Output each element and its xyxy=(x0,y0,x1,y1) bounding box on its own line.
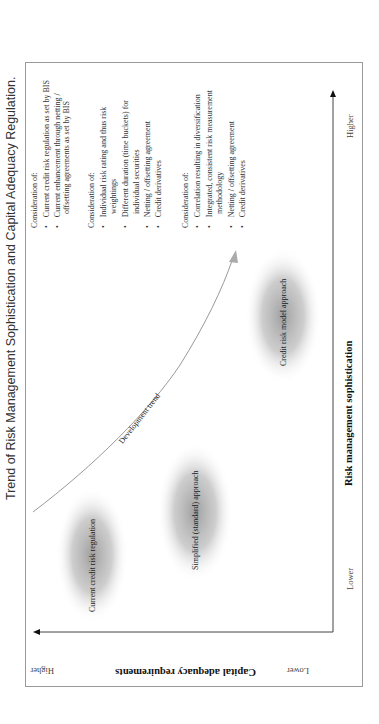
y-axis-title: Capital adequacy requirements xyxy=(115,667,256,678)
line-text: Current enhancement through netting / xyxy=(53,93,62,217)
line-text: Individual risk rating and thus risk xyxy=(99,107,108,217)
consideration-3-line-5: • Credit derivatives xyxy=(239,160,247,228)
y-axis-high-label: Higher xyxy=(30,666,54,676)
consideration-1-line-3: offsetting agreements as set by BIS xyxy=(63,101,71,214)
bullet-icon: • xyxy=(227,217,236,228)
x-axis-low-label: Lower xyxy=(345,568,355,590)
consideration-3-heading: Consideration of: xyxy=(182,172,190,228)
consideration-2-line-1: • Individual risk rating and thus risk xyxy=(100,107,108,228)
consideration-3-line-1: • Correlation resulting in diversificati… xyxy=(194,94,202,228)
bullet-icon: • xyxy=(121,217,130,228)
bullet-icon: • xyxy=(99,217,108,228)
consideration-1-line-1: • Current credit risk regulation as set … xyxy=(43,80,51,228)
bullet-icon: • xyxy=(53,217,62,228)
trend-arrowhead-icon xyxy=(229,250,238,263)
bullet-icon: • xyxy=(42,217,51,228)
consideration-3-line-4: • Netting / offsetting agreement xyxy=(228,121,236,228)
line-text: Credit derivatives xyxy=(154,160,163,217)
line-text: Integrated, consistent risk measurement xyxy=(205,90,214,217)
x-axis-title: Risk management sophistication xyxy=(343,341,354,486)
line-text: Correlation resulting in diversification xyxy=(193,94,202,217)
consideration-2-line-5: • Netting / offsetting agreement xyxy=(144,121,152,228)
line-text: Netting / offsetting agreement xyxy=(227,121,236,217)
bullet-icon: • xyxy=(205,217,214,228)
consideration-3-line-3: methodology xyxy=(216,172,224,214)
line-text: Credit derivatives xyxy=(238,160,247,217)
line-text: Netting / offsetting agreement xyxy=(143,121,152,217)
consideration-2-line-2: weightings xyxy=(110,179,118,214)
x-axis-high-label: Higher xyxy=(345,114,355,138)
consideration-1-heading: Consideration of: xyxy=(31,172,39,228)
bullet-icon: • xyxy=(238,217,247,228)
consideration-2-heading: Consideration of: xyxy=(88,172,96,228)
consideration-2-line-6: • Credit derivatives xyxy=(155,160,163,228)
line-text: Different duration (time buckets) for xyxy=(121,100,130,217)
stage-model-label: Credit risk model approach xyxy=(279,279,288,366)
consideration-2-line-3: • Different duration (time buckets) for xyxy=(122,100,130,228)
consideration-2-line-4: individual securities xyxy=(133,149,141,214)
consideration-1-line-2: • Current enhancement through netting / xyxy=(54,93,62,228)
x-axis-arrowhead-icon xyxy=(330,90,336,97)
line-text: Current credit risk regulation as set by… xyxy=(42,80,51,217)
y-axis-low-label: Lower xyxy=(287,666,309,676)
bullet-icon: • xyxy=(193,217,202,228)
bullet-icon: • xyxy=(143,217,152,228)
consideration-3-line-2: • Integrated, consistent risk measuremen… xyxy=(206,90,214,228)
bullet-icon: • xyxy=(154,217,163,228)
stage-simplified-label: Simplified (standard) approach xyxy=(191,470,200,570)
stage-current-label: Current credit risk regulation xyxy=(88,519,97,612)
y-axis-arrowhead-icon xyxy=(33,629,40,635)
